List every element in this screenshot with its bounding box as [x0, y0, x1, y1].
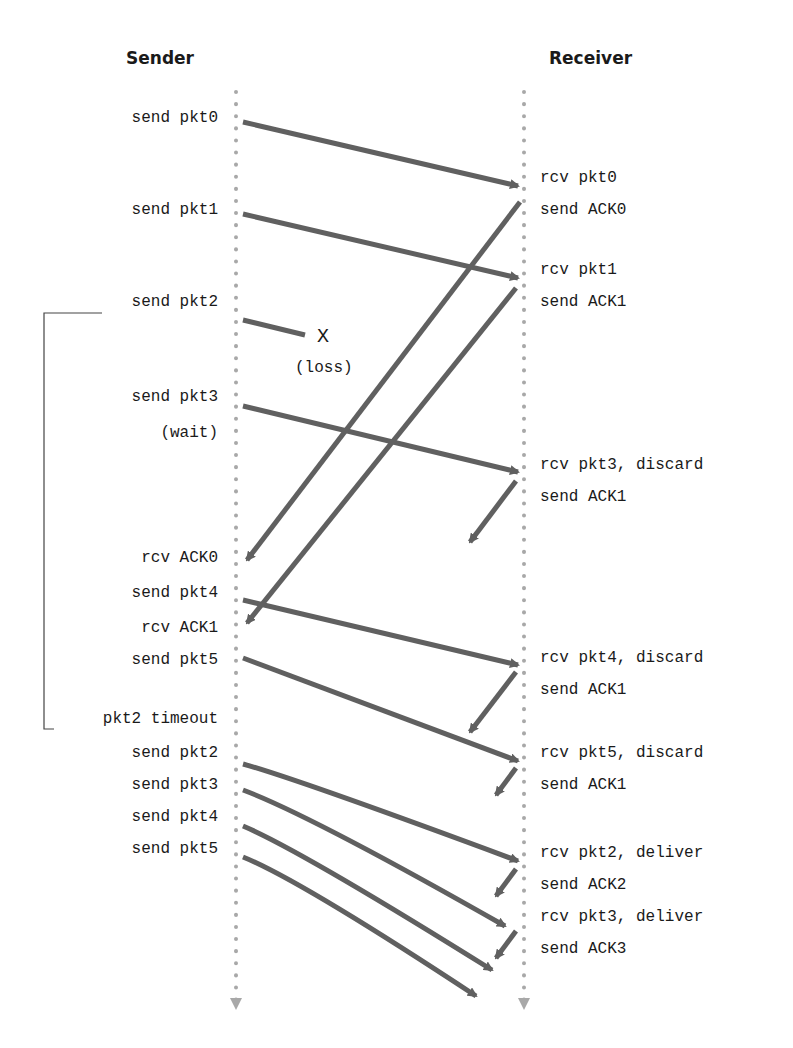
receiver-event-label: send ACK0 — [540, 200, 626, 220]
sender-event-label: rcv ACK0 — [18, 548, 218, 568]
receiver-event-label: rcv pkt0 — [540, 168, 617, 188]
arrow-ack3 — [496, 931, 516, 958]
arrow-ack1 — [247, 288, 516, 623]
receiver-event-label: rcv pkt2, deliver — [540, 843, 703, 863]
arrow-pkt0 — [243, 122, 518, 186]
arrow-pkt3 — [243, 406, 518, 472]
arrow-ack1-dup-b — [470, 672, 516, 732]
receiver-event-label: rcv pkt3, discard — [540, 455, 703, 475]
receiver-event-label: rcv pkt4, discard — [540, 648, 703, 668]
receiver-event-label: send ACK1 — [540, 775, 626, 795]
arrow-pkt5 — [243, 658, 518, 761]
receiver-event-label: send ACK3 — [540, 939, 626, 959]
sequence-diagram — [0, 0, 793, 1048]
loss-mark-icon: X — [317, 327, 329, 347]
sender-event-label: rcv ACK1 — [18, 618, 218, 638]
sender-timeline-arrow-icon — [230, 998, 242, 1010]
receiver-event-label: send ACK1 — [540, 292, 626, 312]
sender-event-label: send pkt2 — [18, 743, 218, 763]
receiver-event-label: send ACK1 — [540, 487, 626, 507]
receiver-event-label: rcv pkt3, deliver — [540, 907, 703, 927]
arrow-ack2 — [496, 869, 516, 896]
sender-event-label: send pkt2 — [18, 292, 218, 312]
sender-event-label: send pkt1 — [18, 200, 218, 220]
arrow-ack1-dup-a — [470, 481, 516, 542]
arrow-pkt1 — [243, 214, 518, 278]
sender-event-label: send pkt0 — [18, 108, 218, 128]
receiver-event-label: rcv pkt5, discard — [540, 743, 703, 763]
arrow-pkt2-lost — [243, 320, 305, 335]
sender-event-label: send pkt4 — [18, 807, 218, 827]
receiver-event-label: send ACK2 — [540, 875, 626, 895]
sender-event-label: (wait) — [18, 423, 218, 443]
receiver-timeline-arrow-icon — [518, 998, 530, 1010]
arrow-pkt4 — [243, 600, 518, 665]
sender-event-label: send pkt3 — [18, 387, 218, 407]
arrow-ack0 — [247, 202, 520, 560]
sender-event-label: send pkt5 — [18, 650, 218, 670]
arrow-ack1-dup-c — [496, 768, 516, 795]
sender-event-label: send pkt5 — [18, 839, 218, 859]
sender-event-label: send pkt4 — [18, 583, 218, 603]
receiver-event-label: send ACK1 — [540, 680, 626, 700]
sender-event-label: pkt2 timeout — [18, 709, 218, 729]
loss-label: (loss) — [295, 358, 353, 378]
receiver-event-label: rcv pkt1 — [540, 260, 617, 280]
sender-event-label: send pkt3 — [18, 775, 218, 795]
arrow-pkt5-retx — [243, 857, 476, 996]
